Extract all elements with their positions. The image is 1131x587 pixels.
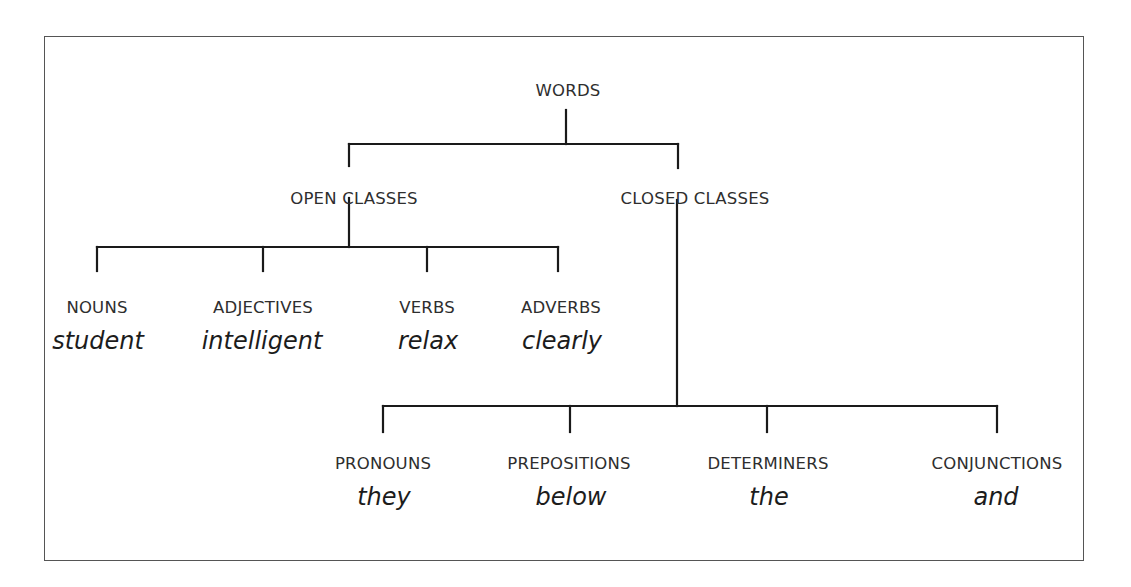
example-student: student xyxy=(52,329,144,353)
category-pronouns: PRONOUNS xyxy=(335,456,431,473)
category-nouns: NOUNS xyxy=(66,300,127,317)
category-conjunctions: CONJUNCTIONS xyxy=(932,456,1063,473)
example-below: below xyxy=(536,485,607,509)
example-they: they xyxy=(357,485,411,509)
example-relax: relax xyxy=(398,329,458,353)
node-root-words: WORDS xyxy=(536,83,601,100)
node-open-classes: OPEN CLASSES xyxy=(290,191,418,208)
category-determiners: DETERMINERS xyxy=(707,456,828,473)
example-intelligent: intelligent xyxy=(202,329,323,353)
example-the: the xyxy=(749,485,788,509)
example-and: and xyxy=(973,485,1018,509)
category-adjectives: ADJECTIVES xyxy=(213,300,313,317)
category-verbs: VERBS xyxy=(399,300,455,317)
category-adverbs: ADVERBS xyxy=(521,300,601,317)
node-closed-classes: CLOSED CLASSES xyxy=(621,191,770,208)
example-clearly: clearly xyxy=(522,329,602,353)
category-prepositions: PREPOSITIONS xyxy=(507,456,630,473)
